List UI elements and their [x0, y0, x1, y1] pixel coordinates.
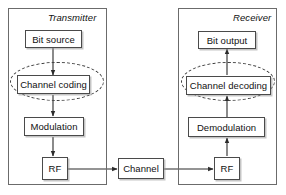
- block-channel-decoding-label: Channel decoding: [190, 80, 267, 91]
- block-bit-output-label: Bit output: [207, 35, 248, 46]
- block-demodulation[interactable]: Demodulation: [188, 117, 265, 137]
- block-modulation[interactable]: Modulation: [24, 117, 84, 136]
- block-demodulation-label: Demodulation: [197, 122, 256, 133]
- block-tx-rf[interactable]: RF: [42, 157, 68, 180]
- block-bit-source[interactable]: Bit source: [25, 30, 82, 48]
- block-channel-label: Channel: [123, 163, 159, 174]
- receiver-panel-title: Receiver: [233, 12, 271, 23]
- block-rx-rf-label: RF: [221, 163, 234, 174]
- block-modulation-label: Modulation: [31, 121, 78, 132]
- block-tx-rf-label: RF: [49, 163, 62, 174]
- transmitter-panel-title: Transmitter: [48, 12, 96, 23]
- block-channel[interactable]: Channel: [118, 158, 164, 179]
- block-channel-coding[interactable]: Channel coding: [17, 75, 90, 94]
- block-rx-rf[interactable]: RF: [214, 157, 240, 180]
- block-channel-decoding[interactable]: Channel decoding: [186, 76, 271, 95]
- block-bit-source-label: Bit source: [32, 34, 75, 45]
- diagram-canvas: Transmitter Bit source Channel coding Mo…: [0, 0, 286, 195]
- block-bit-output[interactable]: Bit output: [198, 31, 256, 49]
- block-channel-coding-label: Channel coding: [20, 79, 87, 90]
